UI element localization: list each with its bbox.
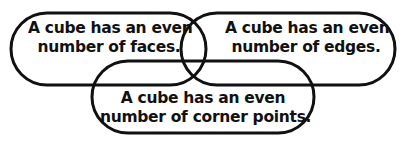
set-edges-line1: A cube has an even xyxy=(225,19,387,38)
set-edges-line2: number of edges. xyxy=(225,38,387,57)
set-faces-line2: number of faces. xyxy=(28,38,190,57)
set-corners-line2: number of corner points. xyxy=(100,108,306,127)
set-faces-label: A cube has an even number of faces. xyxy=(28,19,190,57)
set-corners-line1: A cube has an even xyxy=(100,89,306,108)
set-edges-label: A cube has an even number of edges. xyxy=(225,19,387,57)
set-faces-line1: A cube has an even xyxy=(28,19,190,38)
set-corners-label: A cube has an even number of corner poin… xyxy=(100,89,306,127)
